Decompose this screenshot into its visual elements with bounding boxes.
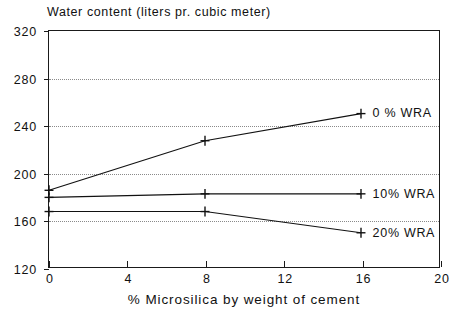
y-tick: 120 [44,269,49,270]
data-point-marker [357,109,366,119]
data-point-marker [201,189,210,199]
data-point-marker [357,228,366,238]
y-tick-label: 200 [14,168,37,182]
x-tick-label: 4 [125,272,133,286]
series-label: 20% WRA [373,226,436,240]
series-line [49,114,361,191]
y-tick-label: 120 [14,263,37,277]
data-point-marker [45,192,54,202]
x-tick-label: 0 [46,272,54,286]
data-point-marker [201,136,210,146]
data-point-marker [201,207,210,217]
x-tick-label: 16 [356,272,372,286]
x-tick: 20 [441,261,442,267]
x-axis-label: % Microsilica by weight of cement [48,292,440,307]
y-tick-label: 160 [14,215,37,229]
x-tick-label: 8 [203,272,211,286]
data-point-marker [357,189,366,199]
y-tick-label: 240 [14,120,37,134]
y-tick-label: 320 [14,25,37,39]
series-label: 10% WRA [373,187,436,201]
chart-screenshot: Water content (liters pr. cubic meter) 1… [0,0,466,318]
y-tick-label: 280 [14,73,37,87]
chart-title: Water content (liters pr. cubic meter) [47,5,271,19]
series-label: 0 % WRA [373,106,432,120]
x-tick-label: 20 [434,272,450,286]
x-tick-label: 12 [277,272,293,286]
data-point-marker [45,207,54,217]
